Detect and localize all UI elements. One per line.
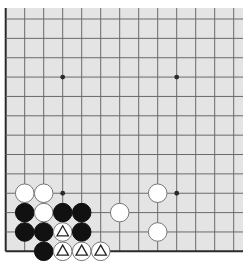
star-point — [60, 191, 65, 196]
black-stone[interactable] — [34, 242, 53, 261]
go-board-canvas[interactable] — [0, 0, 248, 266]
white-stone[interactable] — [148, 184, 167, 203]
white-stone-marked[interactable] — [53, 242, 72, 261]
star-point — [174, 191, 179, 196]
white-stone-marked[interactable] — [72, 242, 91, 261]
black-stone[interactable] — [15, 223, 34, 242]
black-stone-icon — [72, 203, 91, 222]
white-stone-icon — [34, 203, 53, 222]
white-stone[interactable] — [34, 203, 53, 222]
black-stone-icon — [15, 223, 34, 242]
black-stone-icon — [72, 223, 91, 242]
star-point — [174, 75, 179, 80]
black-stone-icon — [34, 223, 53, 242]
white-stone-icon — [110, 203, 129, 222]
white-stone-marked[interactable] — [91, 242, 110, 261]
star-point — [60, 75, 65, 80]
white-stone-icon — [34, 184, 53, 203]
white-stone[interactable] — [15, 184, 34, 203]
black-stone[interactable] — [34, 223, 53, 242]
black-stone[interactable] — [72, 203, 91, 222]
black-stone[interactable] — [53, 203, 72, 222]
white-stone[interactable] — [110, 203, 129, 222]
black-stone[interactable] — [72, 223, 91, 242]
white-stone-marked[interactable] — [53, 223, 72, 242]
white-stone-icon — [15, 184, 34, 203]
white-stone[interactable] — [34, 184, 53, 203]
black-stone-icon — [34, 242, 53, 261]
white-stone-icon — [148, 223, 167, 242]
black-stone-icon — [53, 203, 72, 222]
go-board[interactable] — [0, 0, 248, 266]
black-stone-icon — [15, 203, 34, 222]
white-stone[interactable] — [148, 223, 167, 242]
black-stone[interactable] — [15, 203, 34, 222]
white-stone-icon — [148, 184, 167, 203]
